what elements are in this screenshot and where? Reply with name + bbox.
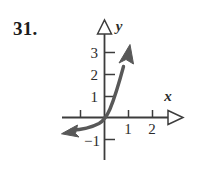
y-tick-label-3: 3 — [91, 45, 99, 61]
x-tick-label-1: 1 — [124, 121, 132, 137]
y-tick-label-2: 2 — [91, 67, 99, 83]
curve-arrowhead-up-icon — [119, 45, 134, 65]
coordinate-graph: x y 3 2 1 −1 1 2 — [0, 0, 209, 174]
curve-arrowhead-left-icon — [62, 125, 80, 137]
y-axis-label: y — [114, 18, 123, 34]
y-axis-arrowhead-icon — [98, 20, 112, 34]
x-tick-label-2: 2 — [148, 121, 156, 137]
exercise-figure: 31. x y — [0, 0, 209, 174]
y-tick-label-1: 1 — [91, 89, 99, 105]
x-axis-arrowhead-icon — [168, 111, 183, 125]
x-axis-label: x — [163, 88, 172, 104]
y-tick-label-neg1: −1 — [84, 133, 100, 149]
